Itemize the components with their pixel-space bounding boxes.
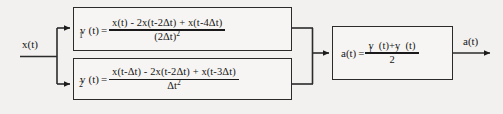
- v1-denominator: (2Δt)2: [151, 31, 183, 43]
- v2-numerator: x(t-Δt) - 2x(t-2Δt) + x(t-3Δt): [109, 67, 239, 79]
- v1-denominator-exponent: 2: [176, 28, 180, 37]
- avg-denominator: 2: [386, 54, 397, 66]
- v1-fraction: x(t) - 2x(t-2Δt) + x(t-4Δt) (2Δt)2: [109, 18, 225, 42]
- v1-lhs: v 1 (t) =: [80, 25, 108, 36]
- equation-average: a(t) = v1(t)+v2(t) 2: [341, 32, 447, 74]
- equation-v2: v 2 (t) = x(t-Δt) - 2x(t-2Δt) + x(t-3Δt)…: [80, 63, 288, 96]
- v1-equals: =: [101, 25, 107, 36]
- v1-subscript: 1: [79, 32, 83, 40]
- avg-fraction: v1(t)+v2(t) 2: [365, 41, 418, 65]
- input-signal-label: x(t): [22, 38, 38, 50]
- v1-numerator: x(t) - 2x(t-2Δt) + x(t-4Δt): [109, 18, 225, 30]
- block-diagram: x(t) v 1 (t) = x(t) - 2x(t-2Δt) + x(t-4Δ…: [0, 0, 503, 114]
- avg-term1-subscript: 1: [368, 47, 372, 55]
- avg-term2-subscript: 2: [395, 47, 399, 55]
- v1-variable: v 1: [80, 25, 86, 36]
- v2-lhs: v 2 (t) =: [80, 74, 108, 85]
- v2-fraction: x(t-Δt) - 2x(t-2Δt) + x(t-3Δt) Δt2: [109, 67, 239, 91]
- avg-variable: a(t): [341, 48, 356, 59]
- output-signal-label: a(t): [463, 35, 478, 47]
- v2-denominator: Δt2: [164, 80, 183, 92]
- avg-equals: =: [358, 48, 364, 59]
- v1-argument: (t): [89, 25, 99, 36]
- equation-v1: v 1 (t) = x(t) - 2x(t-2Δt) + x(t-4Δt) (2…: [80, 13, 288, 47]
- v2-argument: (t): [89, 74, 99, 85]
- avg-term2-argument: (t): [405, 40, 415, 51]
- avg-numerator: v1(t)+v2(t): [365, 41, 418, 53]
- avg-term1-argument: (t): [379, 40, 389, 51]
- avg-lhs: a(t) =: [341, 48, 365, 59]
- avg-term2: v2(t): [395, 41, 416, 52]
- v2-denominator-exponent: 2: [177, 78, 181, 87]
- avg-term1: v1(t): [368, 41, 389, 52]
- v2-variable: v 2: [80, 74, 86, 85]
- v2-subscript: 2: [79, 81, 83, 89]
- v2-equals: =: [101, 74, 107, 85]
